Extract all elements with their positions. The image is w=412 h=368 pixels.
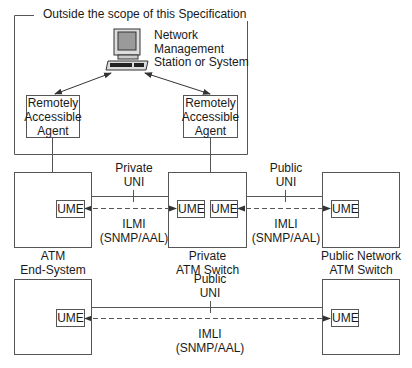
- ume-public-switch: UME: [331, 200, 359, 218]
- computer-workstation-icon: [106, 29, 148, 70]
- scope-title: Outside the scope of this Specification: [40, 7, 249, 21]
- end-system-label: ATM End-System: [14, 250, 92, 277]
- ume-private-switch-left: UME: [177, 200, 205, 218]
- nms-label: Network Management Station or System: [154, 29, 249, 70]
- ume-end-system: UME: [56, 200, 85, 218]
- link2-interface: Public UNI: [265, 162, 307, 189]
- ume-bottom-public-switch: UME: [331, 309, 359, 327]
- agent-box-right: Remotely Accessible Agent: [183, 95, 238, 138]
- link1-protocol: ILMI (SNMP/AAL): [98, 218, 170, 245]
- link3-protocol: IMLI (SNMP/AAL): [174, 328, 246, 355]
- link3-interface: Public UNI: [189, 273, 231, 300]
- ume-bottom-end-system: UME: [56, 309, 85, 327]
- agent-box-left: Remotely Accessible Agent: [26, 95, 80, 138]
- link1-interface: Private UNI: [113, 162, 155, 189]
- link2-protocol: IMLI (SNMP/AAL): [250, 218, 322, 245]
- ume-private-switch-right: UME: [210, 200, 238, 218]
- public-switch-label: Public Network ATM Switch: [316, 250, 406, 277]
